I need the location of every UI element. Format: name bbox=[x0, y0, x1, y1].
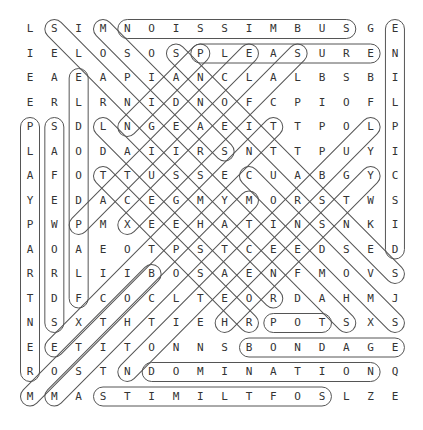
letter-cell[interactable]: A bbox=[215, 264, 235, 284]
letter-cell[interactable]: E bbox=[385, 387, 405, 407]
letter-cell[interactable]: S bbox=[385, 264, 405, 284]
letter-cell[interactable]: F bbox=[69, 289, 89, 309]
letter-cell[interactable]: R bbox=[20, 264, 40, 284]
letter-cell[interactable]: A bbox=[20, 166, 40, 186]
letter-cell[interactable]: D bbox=[69, 117, 89, 137]
letter-cell[interactable]: S bbox=[336, 68, 356, 88]
letter-cell[interactable]: S bbox=[336, 240, 356, 260]
letter-cell[interactable]: O bbox=[44, 240, 64, 260]
letter-cell[interactable]: B bbox=[312, 68, 332, 88]
letter-cell[interactable]: N bbox=[190, 338, 210, 358]
letter-cell[interactable]: E bbox=[361, 44, 381, 64]
letter-cell[interactable]: X bbox=[69, 313, 89, 333]
letter-cell[interactable]: Q bbox=[385, 362, 405, 382]
letter-cell[interactable]: O bbox=[288, 313, 308, 333]
letter-cell[interactable]: M bbox=[166, 387, 186, 407]
letter-cell[interactable]: E bbox=[44, 44, 64, 64]
letter-cell[interactable]: L bbox=[93, 117, 113, 137]
letter-cell[interactable]: I bbox=[385, 215, 405, 235]
letter-cell[interactable]: S bbox=[312, 191, 332, 211]
letter-cell[interactable]: T bbox=[312, 313, 332, 333]
letter-cell[interactable]: M bbox=[93, 215, 113, 235]
letter-cell[interactable]: C bbox=[117, 191, 137, 211]
letter-cell[interactable]: L bbox=[215, 44, 235, 64]
letter-cell[interactable]: I bbox=[385, 68, 405, 88]
letter-cell[interactable]: O bbox=[263, 191, 283, 211]
letter-cell[interactable]: D bbox=[288, 289, 308, 309]
letter-cell[interactable]: S bbox=[215, 19, 235, 39]
letter-cell[interactable]: M bbox=[312, 264, 332, 284]
letter-cell[interactable]: I bbox=[312, 362, 332, 382]
letter-cell[interactable]: A bbox=[288, 166, 308, 186]
letter-cell[interactable]: L bbox=[20, 142, 40, 162]
letter-cell[interactable]: T bbox=[20, 289, 40, 309]
letter-cell[interactable]: A bbox=[263, 44, 283, 64]
letter-cell[interactable]: P bbox=[20, 117, 40, 137]
letter-cell[interactable]: E bbox=[385, 19, 405, 39]
letter-cell[interactable]: F bbox=[288, 264, 308, 284]
letter-cell[interactable]: M bbox=[361, 289, 381, 309]
letter-cell[interactable]: I bbox=[20, 44, 40, 64]
letter-cell[interactable]: A bbox=[263, 362, 283, 382]
letter-cell[interactable]: T bbox=[69, 338, 89, 358]
letter-cell[interactable]: O bbox=[69, 166, 89, 186]
letter-cell[interactable]: S bbox=[93, 387, 113, 407]
letter-cell[interactable]: S bbox=[385, 191, 405, 211]
letter-cell[interactable]: E bbox=[239, 264, 259, 284]
letter-cell[interactable]: O bbox=[288, 387, 308, 407]
letter-cell[interactable]: C bbox=[385, 166, 405, 186]
letter-cell[interactable]: D bbox=[312, 338, 332, 358]
letter-cell[interactable]: E bbox=[239, 44, 259, 64]
letter-cell[interactable]: I bbox=[239, 19, 259, 39]
letter-cell[interactable]: O bbox=[336, 117, 356, 137]
letter-cell[interactable]: C bbox=[263, 93, 283, 113]
letter-cell[interactable]: A bbox=[69, 387, 89, 407]
letter-cell[interactable]: T bbox=[263, 117, 283, 137]
letter-cell[interactable]: I bbox=[142, 142, 162, 162]
letter-cell[interactable]: A bbox=[190, 117, 210, 137]
letter-cell[interactable]: M bbox=[190, 191, 210, 211]
letter-cell[interactable]: T bbox=[336, 191, 356, 211]
letter-cell[interactable]: I bbox=[142, 68, 162, 88]
letter-cell[interactable]: Y bbox=[361, 166, 381, 186]
letter-cell[interactable]: I bbox=[190, 387, 210, 407]
letter-cell[interactable]: N bbox=[117, 117, 137, 137]
letter-cell[interactable]: E bbox=[215, 117, 235, 137]
letter-cell[interactable]: T bbox=[117, 166, 137, 186]
letter-cell[interactable]: P bbox=[263, 313, 283, 333]
letter-cell[interactable]: F bbox=[263, 387, 283, 407]
letter-cell[interactable]: W bbox=[44, 215, 64, 235]
letter-cell[interactable]: N bbox=[117, 19, 137, 39]
letter-cell[interactable]: N bbox=[263, 264, 283, 284]
letter-cell[interactable]: T bbox=[142, 240, 162, 260]
letter-cell[interactable]: O bbox=[336, 362, 356, 382]
letter-cell[interactable]: O bbox=[263, 338, 283, 358]
letter-cell[interactable]: Z bbox=[361, 387, 381, 407]
letter-cell[interactable]: D bbox=[312, 240, 332, 260]
letter-cell[interactable]: I bbox=[117, 264, 137, 284]
letter-cell[interactable]: A bbox=[44, 142, 64, 162]
letter-cell[interactable]: N bbox=[117, 362, 137, 382]
letter-cell[interactable]: V bbox=[361, 264, 381, 284]
letter-cell[interactable]: I bbox=[166, 142, 186, 162]
letter-cell[interactable]: S bbox=[44, 313, 64, 333]
letter-cell[interactable]: A bbox=[166, 68, 186, 88]
letter-cell[interactable]: T bbox=[288, 362, 308, 382]
letter-cell[interactable]: O bbox=[239, 289, 259, 309]
letter-cell[interactable]: S bbox=[336, 313, 356, 333]
letter-cell[interactable]: A bbox=[215, 215, 235, 235]
letter-cell[interactable]: E bbox=[20, 68, 40, 88]
letter-cell[interactable]: E bbox=[44, 191, 64, 211]
letter-cell[interactable]: T bbox=[117, 387, 137, 407]
letter-cell[interactable]: H bbox=[215, 313, 235, 333]
letter-cell[interactable]: C bbox=[215, 68, 235, 88]
letter-cell[interactable]: I bbox=[312, 93, 332, 113]
letter-cell[interactable]: A bbox=[263, 68, 283, 88]
letter-cell[interactable]: L bbox=[239, 68, 259, 88]
letter-cell[interactable]: R bbox=[93, 93, 113, 113]
letter-cell[interactable]: B bbox=[288, 19, 308, 39]
letter-cell[interactable]: D bbox=[166, 93, 186, 113]
letter-cell[interactable]: L bbox=[69, 44, 89, 64]
letter-cell[interactable]: I bbox=[215, 362, 235, 382]
letter-cell[interactable]: S bbox=[215, 338, 235, 358]
